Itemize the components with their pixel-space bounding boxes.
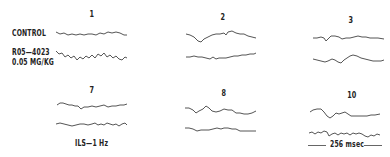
trace-7-lower (56, 123, 127, 126)
trace-1-lower (56, 51, 127, 60)
traces (0, 0, 390, 157)
eeg-figure: CONTROL R05—4023 0.05 MG/KG 1 2 3 7 8 10… (0, 0, 390, 157)
trace-7-upper (57, 103, 127, 109)
trace-8-lower (185, 128, 256, 131)
trace-10-upper (310, 109, 380, 118)
trace-1-upper (56, 32, 127, 35)
trace-3-lower (313, 55, 384, 63)
trace-8-upper (185, 106, 256, 114)
trace-2-lower (186, 53, 256, 59)
trace-3-upper (313, 36, 384, 41)
trace-2-upper (186, 31, 256, 42)
trace-10-lower (309, 131, 380, 137)
